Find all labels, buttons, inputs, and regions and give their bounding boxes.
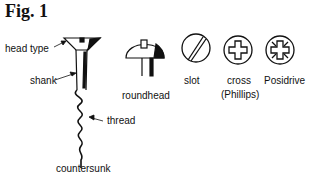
roundhead-screw-icon — [126, 40, 164, 76]
posidrive-head-icon — [266, 36, 294, 64]
countersunk-screw-icon — [64, 38, 100, 168]
cross-head-icon — [224, 36, 252, 64]
label-posidrive: Posidrive — [264, 75, 305, 86]
label-head-type: head type — [5, 43, 49, 54]
label-cross: cross — [227, 75, 251, 86]
label-thread: thread — [107, 115, 135, 126]
label-phillips: (Phillips) — [221, 89, 259, 100]
label-shank: shank — [30, 75, 57, 86]
slot-head-icon — [182, 34, 210, 62]
label-countersunk: countersunk — [56, 163, 110, 174]
label-slot: slot — [184, 75, 200, 86]
label-roundhead: roundhead — [122, 90, 170, 101]
